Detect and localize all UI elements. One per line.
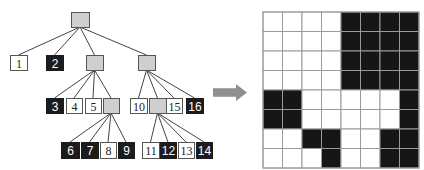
leaf-node-9: 9 [119,143,135,159]
leaf-node-16: 16 [187,99,204,114]
grid-cell-black [380,32,400,52]
grid-cell-white [361,149,381,169]
grid-cell-black [361,51,381,71]
leaf-node-15: 15 [167,99,183,114]
grid-cell-white [263,149,283,169]
grid-cell-black [400,110,420,130]
tree-edge [158,113,169,142]
node-label: 13 [181,144,193,158]
leaf-node-1: 1 [11,56,28,71]
node-label: 3 [52,100,59,114]
grid-cell-white [283,12,303,32]
grid-cell-white [283,32,303,52]
leaf-node-14: 14 [197,143,213,159]
grid-cell-black [361,32,381,52]
tree-edge [147,70,158,98]
grid-cell-white [263,71,283,91]
tree-edge [111,113,126,142]
node-box [72,13,90,28]
node-label: 7 [87,144,94,158]
grid-cell-black [341,51,361,71]
grid-cell-white [302,71,322,91]
grid-cell-black [380,12,400,32]
leaf-node-12: 12 [161,143,177,159]
leaf-node-3: 3 [47,99,64,114]
tree-edge [55,27,81,55]
leaf-node-13: 13 [179,143,195,159]
grid-cell-white [322,71,342,91]
tree-edge [80,27,95,55]
leaf-node-2: 2 [47,56,64,71]
tree-edge [108,113,111,142]
grid-cell-white [263,32,283,52]
grid-cell-black [302,129,322,149]
grid-cell-white [283,71,303,91]
tree-edge [90,113,112,142]
leaf-node-11: 11 [143,143,160,159]
tree-edge [151,113,158,142]
grid-cell-white [302,90,322,110]
tree-edge [55,70,95,98]
grid-cell-black [263,90,283,110]
grid-cell-white [283,51,303,71]
grid-cell-black [380,51,400,71]
node-label: 15 [169,100,181,114]
tree-edge [95,70,112,98]
grid-cell-white [341,90,361,110]
node-label: 6 [67,144,74,158]
tree-edge [158,113,205,142]
node-box [139,56,156,71]
quadtree: 12345101516678911121314 [11,13,213,159]
grid-cell-black [400,71,420,91]
grid-cell-white [322,32,342,52]
tree-edge [139,70,147,98]
grid-cell-white [302,32,322,52]
node-box [87,56,104,71]
tree-edge [74,70,95,98]
grid-cell-white [322,90,342,110]
grid-cell-white [302,51,322,71]
node-label: 2 [52,57,59,71]
leaf-node-6: 6 [62,143,80,159]
grid-cell-black [341,12,361,32]
grid-cell-black [361,12,381,32]
grid-cell-white [302,149,322,169]
internal-node [72,13,90,28]
internal-node [104,99,120,114]
leaf-node-10: 10 [131,99,148,114]
grid-cell-white [361,90,381,110]
leaf-node-7: 7 [82,143,99,159]
grid-cell-black [380,129,400,149]
node-label: 11 [145,144,157,158]
leaf-node-5: 5 [86,99,102,114]
grid-cell-black [263,110,283,130]
pixel-grid [263,12,419,168]
grid-cell-white [283,149,303,169]
grid-cell-white [361,129,381,149]
internal-node [150,99,167,114]
grid-cell-white [322,110,342,130]
node-label: 16 [188,100,202,114]
grid-cell-white [263,51,283,71]
node-box [104,99,120,114]
right-arrow-icon [213,84,247,101]
node-label: 4 [72,100,78,114]
grid-cell-white [361,110,381,130]
grid-cell-white [341,149,361,169]
leaf-node-4: 4 [67,99,83,114]
node-label: 5 [91,100,97,114]
tree-edge [19,27,81,55]
grid-cell-black [400,90,420,110]
grid-cell-black [341,71,361,91]
node-label: 8 [106,144,112,158]
grid-cell-white [322,12,342,32]
grid-cell-white [341,129,361,149]
grid-cell-black [283,110,303,130]
grid-cell-black [400,129,420,149]
tree-edges [19,27,205,142]
arrow-shape [213,84,247,101]
grid-cell-black [361,71,381,91]
grid-cell-black [400,12,420,32]
grid-cell-black [341,32,361,52]
grid-cell-black [322,149,342,169]
